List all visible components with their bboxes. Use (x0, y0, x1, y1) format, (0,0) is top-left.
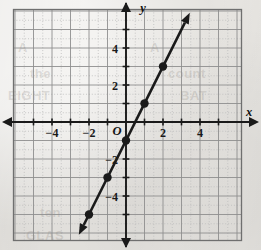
y-tick-label: 2 (112, 79, 118, 93)
y-tick-label: −4 (105, 190, 118, 204)
y-axis-label: y (138, 1, 146, 15)
figure-canvas: AtheEIGHTAcountBATtenGLAS −4−22442−2−4 O… (0, 0, 261, 250)
y-axis-arrow-down (121, 238, 131, 248)
minor-gridlines (14, 10, 242, 241)
plot-frame (14, 10, 242, 241)
line-arrow-end (181, 13, 190, 25)
coordinate-plane: −4−22442−2−4 O x y (0, 0, 261, 250)
major-gridlines (14, 10, 242, 241)
x-tick-label: −2 (83, 126, 96, 140)
data-point (159, 62, 167, 70)
y-tick-label: 4 (112, 42, 118, 56)
origin-label: O (112, 124, 121, 138)
data-point (140, 99, 148, 107)
y-axis-arrow-up (121, 2, 131, 12)
x-tick-label: 2 (160, 126, 166, 140)
x-axis-arrow-left (2, 117, 12, 127)
x-tick-label: −4 (46, 126, 59, 140)
x-axis-label: x (245, 105, 252, 119)
data-point (103, 173, 111, 181)
data-series-line (79, 13, 190, 235)
line-segment (84, 23, 185, 225)
data-point (85, 210, 93, 218)
data-point (122, 136, 130, 144)
x-tick-label: 4 (197, 126, 203, 140)
